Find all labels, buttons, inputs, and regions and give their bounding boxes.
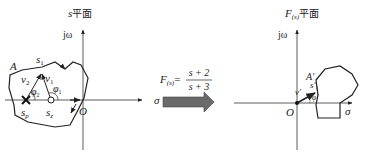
- F-plane: F(s)平面 jω σ A′ s′1 v′ φ′ O: [234, 7, 358, 150]
- v-prime-label: v′: [295, 87, 302, 97]
- imag-axis-label: jω: [277, 29, 288, 40]
- origin-label: O: [79, 105, 87, 117]
- s1-prime-label: s′1: [310, 80, 318, 91]
- function-name: F(s)=: [159, 73, 180, 87]
- mapping-arrow: [163, 92, 214, 112]
- conformal-mapping-diagram: s平面 jω σ A s1 v2 v1 φ2 φ1 sp sz O F(s)= …: [0, 0, 365, 166]
- phi2-label: φ2: [31, 86, 40, 98]
- contour-A-prime: [316, 66, 358, 118]
- zero-marker: [48, 97, 54, 103]
- origin-point: [295, 101, 299, 105]
- phi-prime-label: φ′: [312, 93, 318, 102]
- phi1-label: φ1: [53, 83, 62, 95]
- v2-label: v2: [21, 73, 30, 87]
- F-plane-title: F(s)平面: [284, 7, 319, 21]
- denominator: s + 3: [189, 81, 210, 92]
- contour-direction-arrow: [71, 104, 76, 113]
- mapping-function: F(s)= s + 2 s + 3: [159, 67, 214, 112]
- imag-axis-label: jω: [62, 29, 73, 40]
- contour-label: A: [9, 60, 17, 72]
- pole-label: sp: [21, 106, 29, 120]
- angle-phi-prime-arc: [309, 97, 310, 103]
- origin-label: O: [286, 106, 294, 118]
- real-axis-label: σ: [154, 94, 160, 106]
- real-axis-label: σ: [345, 105, 351, 117]
- numerator: s + 2: [189, 67, 210, 78]
- s-plane: s平面 jω σ A s1 v2 v1 φ2 φ1 sp sz O: [5, 7, 160, 150]
- s1-label: s1: [36, 53, 44, 67]
- s-plane-title: s平面: [68, 7, 92, 19]
- zero-label: sz: [46, 106, 53, 120]
